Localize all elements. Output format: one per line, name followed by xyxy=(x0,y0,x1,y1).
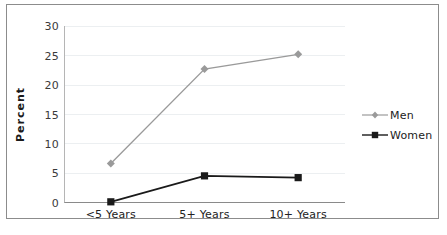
y-tick-5: 5 xyxy=(52,168,59,179)
legend-marker-square-icon xyxy=(362,129,388,141)
y-tick-10: 10 xyxy=(45,139,59,150)
series-men xyxy=(107,50,302,167)
clipped-page-text xyxy=(0,225,447,235)
chart-legend: Men Women xyxy=(362,105,440,145)
legend-item-women: Women xyxy=(362,125,440,145)
y-tick-25: 25 xyxy=(45,50,59,61)
legend-item-men: Men xyxy=(362,105,440,125)
series-women xyxy=(107,172,302,205)
y-tick-20: 20 xyxy=(45,79,59,90)
data-series-layer xyxy=(64,26,345,203)
x-tick-0: <5 Years xyxy=(86,208,136,221)
y-tick-0: 0 xyxy=(52,198,59,209)
series-line-women xyxy=(111,176,298,202)
y-tick-30: 30 xyxy=(45,21,59,32)
figure-frame: Percent 30 25 20 15 10 5 0 xyxy=(6,4,439,219)
data-point-women-0 xyxy=(107,198,114,205)
data-point-women-2 xyxy=(295,174,302,181)
data-point-men-2 xyxy=(294,50,302,58)
legend-marker-diamond-icon xyxy=(362,109,388,121)
legend-label-women: Women xyxy=(388,129,432,142)
x-tick-1: 5+ Years xyxy=(179,208,229,221)
data-point-women-1 xyxy=(201,172,208,179)
x-axis-ticks: <5 Years 5+ Years 10+ Years xyxy=(64,206,345,224)
y-axis-ticks: 30 25 20 15 10 5 0 xyxy=(25,26,59,203)
x-tick-2: 10+ Years xyxy=(269,208,327,221)
legend-label-men: Men xyxy=(388,109,414,122)
y-tick-15: 15 xyxy=(45,109,59,120)
chart-screenshot: Percent 30 25 20 15 10 5 0 xyxy=(0,0,447,235)
